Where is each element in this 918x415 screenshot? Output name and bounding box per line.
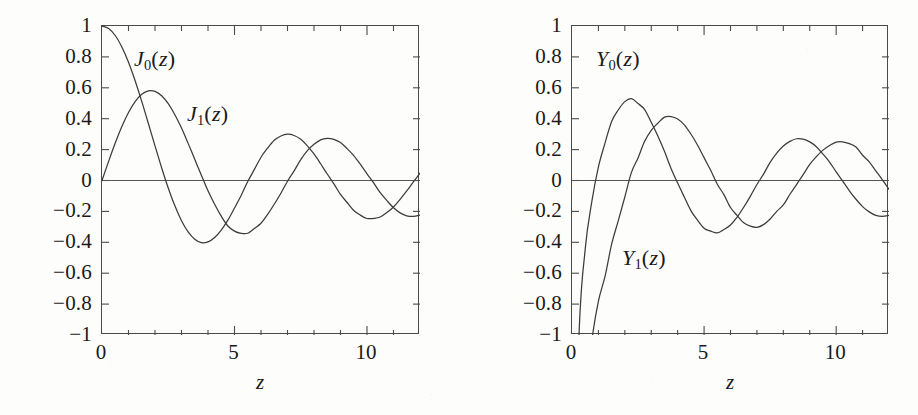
y-tick-label: −0.6: [459, 262, 562, 283]
curve-label-y0-sub: 0: [609, 57, 616, 73]
y-tick-label: −0.8: [459, 293, 562, 314]
curve-label-j1-base: J: [187, 101, 197, 126]
y-tick-label: 0.2: [0, 138, 92, 159]
curve-label-y0-base: Y: [596, 46, 609, 71]
curve-label-j1-arg: (z): [204, 101, 228, 126]
y-tick-label: −0.2: [0, 200, 92, 221]
curve-label-j1: J1(z): [187, 103, 229, 128]
x-tick-label: 10: [356, 342, 377, 363]
y-tick-label: 0.4: [459, 107, 562, 128]
y-axis-ticks-right: 10.80.60.40.20−0.2−0.4−0.6−0.8−1: [470, 0, 562, 415]
bessel-functions-figure: 10.80.60.40.20−0.2−0.4−0.6−0.8−1 0510 z …: [0, 0, 918, 415]
panel-bessel-first-kind: 10.80.60.40.20−0.2−0.4−0.6−0.8−1 0510 z …: [0, 0, 459, 415]
curve-label-y1-sub: 1: [635, 256, 642, 272]
y-tick-label: 0.6: [459, 76, 562, 97]
y-tick-label: 0: [0, 169, 92, 190]
y-tick-label: −1: [459, 324, 562, 345]
curve-j1: [102, 91, 420, 234]
x-axis-label-right: z: [726, 372, 734, 393]
y-tick-label: 0.8: [0, 45, 92, 66]
y-tick-label: −0.4: [0, 231, 92, 252]
panel-bessel-second-kind: 10.80.60.40.20−0.2−0.4−0.6−0.8−1 0510 z …: [459, 0, 918, 415]
y-tick-label: 0.8: [459, 45, 562, 66]
curve-label-j0-base: J: [134, 46, 144, 71]
y-tick-label: −0.8: [0, 293, 92, 314]
x-tick-label: 0: [96, 342, 107, 363]
curve-label-y1-arg: (z): [642, 245, 666, 270]
y-tick-label: 0.2: [459, 138, 562, 159]
y-tick-label: 1: [0, 15, 92, 36]
x-axis-label-left: z: [256, 372, 264, 393]
x-tick-label: 5: [698, 342, 709, 363]
y-tick-label: 0: [459, 169, 562, 190]
y-tick-label: −1: [0, 324, 92, 345]
x-tick-label: 0: [566, 342, 577, 363]
y-tick-label: 0.6: [0, 76, 92, 97]
y-tick-label: −0.2: [459, 200, 562, 221]
y-tick-label: −0.6: [0, 262, 92, 283]
y-axis-ticks-left: 10.80.60.40.20−0.2−0.4−0.6−0.8−1: [0, 0, 92, 415]
curve-label-y1-base: Y: [622, 245, 635, 270]
curve-y0: [572, 99, 889, 415]
y-tick-label: 0.4: [0, 107, 92, 128]
curve-label-y0-arg: (z): [616, 46, 640, 71]
curve-label-j0: J0(z): [134, 48, 176, 73]
x-tick-label: 5: [228, 342, 239, 363]
y-tick-label: −0.4: [459, 231, 562, 252]
y-tick-label: 1: [459, 15, 562, 36]
curve-label-j0-arg: (z): [151, 46, 175, 71]
x-tick-label: 10: [825, 342, 846, 363]
curve-label-y1: Y1(z): [622, 247, 666, 272]
curve-label-y0: Y0(z): [596, 48, 640, 73]
